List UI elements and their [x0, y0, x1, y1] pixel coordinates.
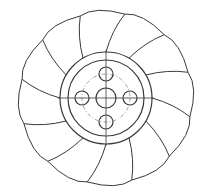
impeller-drawing: [0, 0, 209, 194]
blade-divider: [87, 144, 106, 182]
blade-divider: [48, 138, 83, 161]
blade-tip-edge: [48, 161, 87, 182]
blade-tip-edge: [22, 40, 43, 79]
blade-divider: [152, 98, 190, 117]
blade-divider: [106, 14, 125, 52]
blade-divider: [146, 121, 169, 156]
blade-tip-edge: [43, 16, 81, 40]
blade-tip-edge: [125, 14, 164, 35]
blade-divider: [43, 40, 66, 75]
blade-tip-edge: [80, 10, 124, 16]
blade-tip-edge: [164, 35, 188, 73]
blade-divider: [22, 79, 60, 98]
blade-tip-edge: [132, 156, 170, 180]
blade-divider: [129, 138, 133, 180]
hub: [58, 50, 154, 146]
blade-tip-edge: [87, 180, 131, 186]
impeller-svg: [0, 0, 209, 194]
blade-divider: [146, 71, 188, 75]
blade-tip-edge: [188, 72, 194, 116]
blade-divider: [24, 121, 66, 125]
blade-tip-edge: [18, 79, 24, 123]
blade-divider: [79, 16, 83, 58]
blade-divider: [129, 35, 164, 58]
blade-tip-edge: [24, 124, 48, 162]
blade-tip-edge: [169, 117, 190, 156]
